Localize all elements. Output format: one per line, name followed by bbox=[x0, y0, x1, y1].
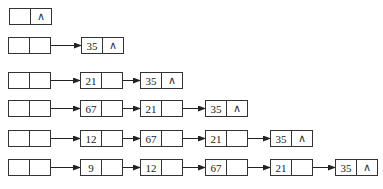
data-field: 21 bbox=[141, 101, 162, 116]
data-field: 21 bbox=[206, 131, 227, 146]
next-pointer bbox=[162, 101, 182, 116]
data-field bbox=[9, 131, 30, 146]
data-field bbox=[10, 9, 31, 24]
data-field: 21 bbox=[81, 73, 102, 88]
list-node: 21 bbox=[270, 159, 313, 176]
list-node: 9 bbox=[80, 159, 123, 176]
data-field bbox=[9, 101, 30, 116]
list-node: 12 bbox=[140, 159, 183, 176]
list-node: 35∧ bbox=[205, 100, 248, 117]
head-node bbox=[8, 72, 51, 89]
data-field: 67 bbox=[206, 160, 227, 175]
next-pointer bbox=[162, 160, 182, 175]
data-field: 35 bbox=[82, 38, 103, 53]
list-node: 21 bbox=[205, 130, 248, 147]
null-pointer: ∧ bbox=[357, 160, 377, 175]
list-node: 35∧ bbox=[81, 37, 124, 54]
next-pointer bbox=[30, 101, 50, 116]
null-icon: ∧ bbox=[298, 132, 306, 145]
data-field: 12 bbox=[141, 160, 162, 175]
next-pointer bbox=[162, 131, 182, 146]
list-node: 67 bbox=[80, 100, 123, 117]
data-field: 67 bbox=[141, 131, 162, 146]
data-field bbox=[9, 73, 30, 88]
null-icon: ∧ bbox=[233, 102, 241, 115]
linked-list-diagram: ∧35∧2135∧672135∧12672135∧912672135∧ bbox=[0, 0, 383, 189]
data-field bbox=[9, 160, 30, 175]
head-node bbox=[8, 37, 51, 54]
list-node: 35∧ bbox=[140, 72, 183, 89]
list-node: 67 bbox=[205, 159, 248, 176]
list-node: 35∧ bbox=[335, 159, 378, 176]
head-node bbox=[8, 130, 51, 147]
data-field: 35 bbox=[336, 160, 357, 175]
data-field bbox=[9, 38, 30, 53]
null-pointer: ∧ bbox=[227, 101, 247, 116]
data-field: 67 bbox=[81, 101, 102, 116]
list-node: 12 bbox=[80, 130, 123, 147]
arrows-layer bbox=[0, 0, 383, 189]
data-field: 9 bbox=[81, 160, 102, 175]
next-pointer bbox=[292, 160, 312, 175]
list-node: 35∧ bbox=[270, 130, 313, 147]
next-pointer bbox=[102, 73, 122, 88]
data-field: 12 bbox=[81, 131, 102, 146]
null-icon: ∧ bbox=[37, 10, 45, 23]
list-node: 67 bbox=[140, 130, 183, 147]
next-pointer bbox=[30, 131, 50, 146]
list-node: 21 bbox=[80, 72, 123, 89]
data-field: 35 bbox=[206, 101, 227, 116]
next-pointer bbox=[102, 160, 122, 175]
null-icon: ∧ bbox=[168, 74, 176, 87]
null-pointer: ∧ bbox=[292, 131, 312, 146]
head-node bbox=[8, 100, 51, 117]
null-icon: ∧ bbox=[109, 39, 117, 52]
null-pointer: ∧ bbox=[31, 9, 51, 24]
data-field: 35 bbox=[141, 73, 162, 88]
next-pointer bbox=[30, 160, 50, 175]
data-field: 21 bbox=[271, 160, 292, 175]
next-pointer bbox=[102, 131, 122, 146]
head-node: ∧ bbox=[9, 8, 52, 25]
head-node bbox=[8, 159, 51, 176]
list-node: 21 bbox=[140, 100, 183, 117]
null-pointer: ∧ bbox=[103, 38, 123, 53]
null-icon: ∧ bbox=[363, 161, 371, 174]
null-pointer: ∧ bbox=[162, 73, 182, 88]
next-pointer bbox=[30, 73, 50, 88]
next-pointer bbox=[227, 131, 247, 146]
next-pointer bbox=[102, 101, 122, 116]
data-field: 35 bbox=[271, 131, 292, 146]
next-pointer bbox=[227, 160, 247, 175]
next-pointer bbox=[30, 38, 50, 53]
